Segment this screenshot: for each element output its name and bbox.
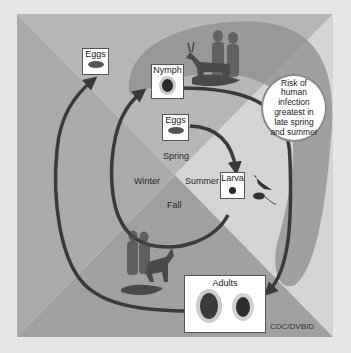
egg-cluster-icon xyxy=(88,61,104,68)
stage-box-eggs-outer: Eggs xyxy=(82,48,109,75)
stage-label-adults: Adults xyxy=(185,279,265,288)
stage-label-nymph: Nymph xyxy=(152,66,183,75)
season-label-summer: Summer xyxy=(185,177,219,186)
diagram-graphics xyxy=(0,0,351,353)
stage-label-eggs-inner: Eggs xyxy=(163,116,188,125)
season-label-fall: Fall xyxy=(167,201,182,210)
stage-box-nymph: Nymph xyxy=(151,64,184,99)
egg-cluster-icon xyxy=(168,127,184,134)
adult-male-tick-icon xyxy=(236,297,250,317)
stage-label-eggs-outer: Eggs xyxy=(83,50,108,59)
stage-box-adults: Adults xyxy=(184,275,266,333)
stage-box-eggs-inner: Eggs xyxy=(162,114,189,141)
adult-female-tick-icon xyxy=(200,293,218,319)
season-label-winter: Winter xyxy=(134,177,160,186)
stage-label-larva: Larva xyxy=(221,174,244,183)
nymph-tick-icon xyxy=(162,79,173,92)
stage-box-larva: Larva xyxy=(220,172,245,199)
risk-text-line: and summer xyxy=(270,128,317,138)
larva-tick-icon xyxy=(229,187,236,194)
risk-callout: Risk of human infection greatest in late… xyxy=(261,74,327,142)
season-label-spring: Spring xyxy=(163,152,189,161)
image-credit: CDC/DVBID xyxy=(270,322,314,331)
tick-lifecycle-diagram: Spring Summer Winter Fall Eggs Nymph Egg… xyxy=(0,0,351,353)
